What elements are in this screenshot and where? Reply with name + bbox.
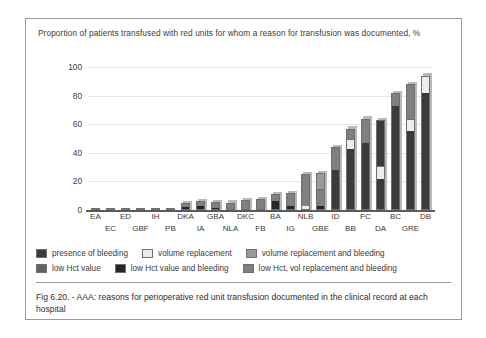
bar-segment (286, 193, 295, 206)
x-axis-label-EC: EC (105, 224, 116, 233)
caption-box: Fig 6.20. - AAA: reasons for perioperati… (36, 282, 451, 321)
x-axis-label-DB: DB (420, 212, 431, 221)
bar-segment (361, 143, 370, 210)
x-axis-labels: EAECEDGBFIHPBDKAIAGBANLADKCFBBAIGNLBGBEI… (88, 212, 433, 242)
bar-segment (406, 131, 415, 210)
legend-item[interactable]: low Hct value (36, 264, 101, 273)
x-axis-label-PB: PB (165, 224, 176, 233)
bar-IA[interactable] (196, 201, 205, 210)
bar-segment (421, 93, 430, 210)
x-axis-label-GBE: GBE (312, 224, 329, 233)
x-axis-label-DA: DA (375, 224, 386, 233)
plot-area: 020406080100 (88, 67, 433, 210)
legend-swatch-icon (36, 249, 47, 258)
x-axis-label-BB: BB (345, 224, 356, 233)
bar-DB[interactable] (421, 76, 430, 210)
legend-swatch-icon (36, 264, 47, 273)
bar-DKA[interactable] (181, 203, 190, 210)
bar-FC[interactable] (361, 118, 370, 210)
x-axis-label-NLA: NLA (223, 224, 239, 233)
bar-segment (391, 93, 400, 106)
legend-item[interactable]: presence of bleeding (36, 249, 128, 258)
legend-label: low Hct, vol replacement and bleeding (259, 264, 397, 273)
x-axis-label-IG: IG (286, 224, 295, 233)
legend-row: presence of bleedingvolume replacementvo… (36, 247, 451, 260)
bar-NLB[interactable] (301, 174, 310, 210)
legend-item[interactable]: low Hct value and bleeding (115, 264, 229, 273)
bar-segment (301, 174, 310, 205)
bar-segment (346, 149, 355, 210)
bar-DKC[interactable] (241, 200, 250, 210)
y-axis-tick-label: 0 (77, 205, 82, 215)
bar-segment (271, 201, 280, 210)
legend-label: low Hct value and bleeding (131, 264, 229, 273)
x-axis-label-GBF: GBF (132, 224, 149, 233)
legend-swatch-icon (115, 264, 126, 273)
bar-segment (346, 129, 355, 139)
bar-segment (346, 139, 355, 149)
x-axis-label-ED: ED (120, 212, 131, 221)
bar-BB[interactable] (346, 129, 355, 211)
y-axis-tick-label: 100 (68, 62, 82, 72)
chart-legend: presence of bleedingvolume replacementvo… (36, 247, 451, 277)
bar-NLA[interactable] (226, 203, 235, 210)
y-axis-tick-label: 80 (73, 91, 82, 101)
figure-caption: Fig 6.20. - AAA: reasons for perioperati… (36, 291, 451, 315)
bar-segment (241, 200, 250, 209)
bar-segment (331, 147, 340, 170)
x-axis-label-IA: IA (197, 224, 205, 233)
bar-segment (361, 119, 370, 143)
bar-GRE[interactable] (406, 84, 415, 210)
x-axis-label-ID: ID (331, 212, 339, 221)
bar-BC[interactable] (391, 93, 400, 210)
bar-DA[interactable] (376, 120, 385, 210)
legend-label: presence of bleeding (52, 249, 128, 258)
x-axis-label-FB: FB (255, 224, 265, 233)
gridline (88, 96, 433, 97)
legend-swatch-icon (243, 264, 254, 273)
bar-segment (256, 199, 265, 208)
x-axis-label-GBA: GBA (207, 212, 224, 221)
y-axis-tick-label: 20 (73, 176, 82, 186)
gridline (88, 67, 433, 68)
legend-swatch-icon (246, 249, 257, 258)
chart-title: Proportion of patients transfused with r… (38, 28, 438, 39)
legend-item[interactable]: volume replacement (142, 249, 232, 258)
bar-segment (376, 179, 385, 210)
y-axis-tick-label: 40 (73, 148, 82, 158)
x-axis-label-BC: BC (390, 212, 401, 221)
x-axis-label-DKC: DKC (237, 212, 254, 221)
legend-item[interactable]: volume replacement and bleeding (246, 249, 385, 258)
legend-row: low Hct valuelow Hct value and bleedingl… (36, 262, 451, 275)
x-axis-label-DKA: DKA (177, 212, 194, 221)
x-axis-label-NLB: NLB (298, 212, 314, 221)
x-axis-label-GRE: GRE (402, 224, 420, 233)
legend-label: volume replacement (158, 249, 232, 258)
bar-segment (376, 166, 385, 179)
legend-swatch-icon (142, 249, 153, 258)
bar-segment (271, 194, 280, 201)
y-axis-tick-label: 60 (73, 119, 82, 129)
legend-item[interactable]: low Hct, vol replacement and bleeding (243, 264, 397, 273)
legend-label: volume replacement and bleeding (262, 249, 385, 258)
figure-frame: Proportion of patients transfused with r… (25, 18, 462, 320)
legend-label: low Hct value (52, 264, 101, 273)
bar-IG[interactable] (286, 193, 295, 210)
bar-segment (406, 84, 415, 118)
bar-segment (406, 119, 415, 132)
x-axis-label-FC: FC (360, 212, 371, 221)
x-axis-label-EA: EA (90, 212, 101, 221)
bar-GBE[interactable] (316, 173, 325, 210)
x-axis-label-IH: IH (151, 212, 159, 221)
x-axis-label-BA: BA (270, 212, 281, 221)
bar-segment (391, 106, 400, 210)
bar-FB[interactable] (256, 199, 265, 210)
bar-segment (316, 173, 325, 189)
bar-segment (421, 76, 430, 93)
bar-ID[interactable] (331, 147, 340, 210)
bar-BA[interactable] (271, 194, 280, 210)
bar-GBA[interactable] (211, 202, 220, 210)
bar-segment (316, 189, 325, 206)
bar-segment (331, 170, 340, 210)
bar-segment (376, 120, 385, 166)
